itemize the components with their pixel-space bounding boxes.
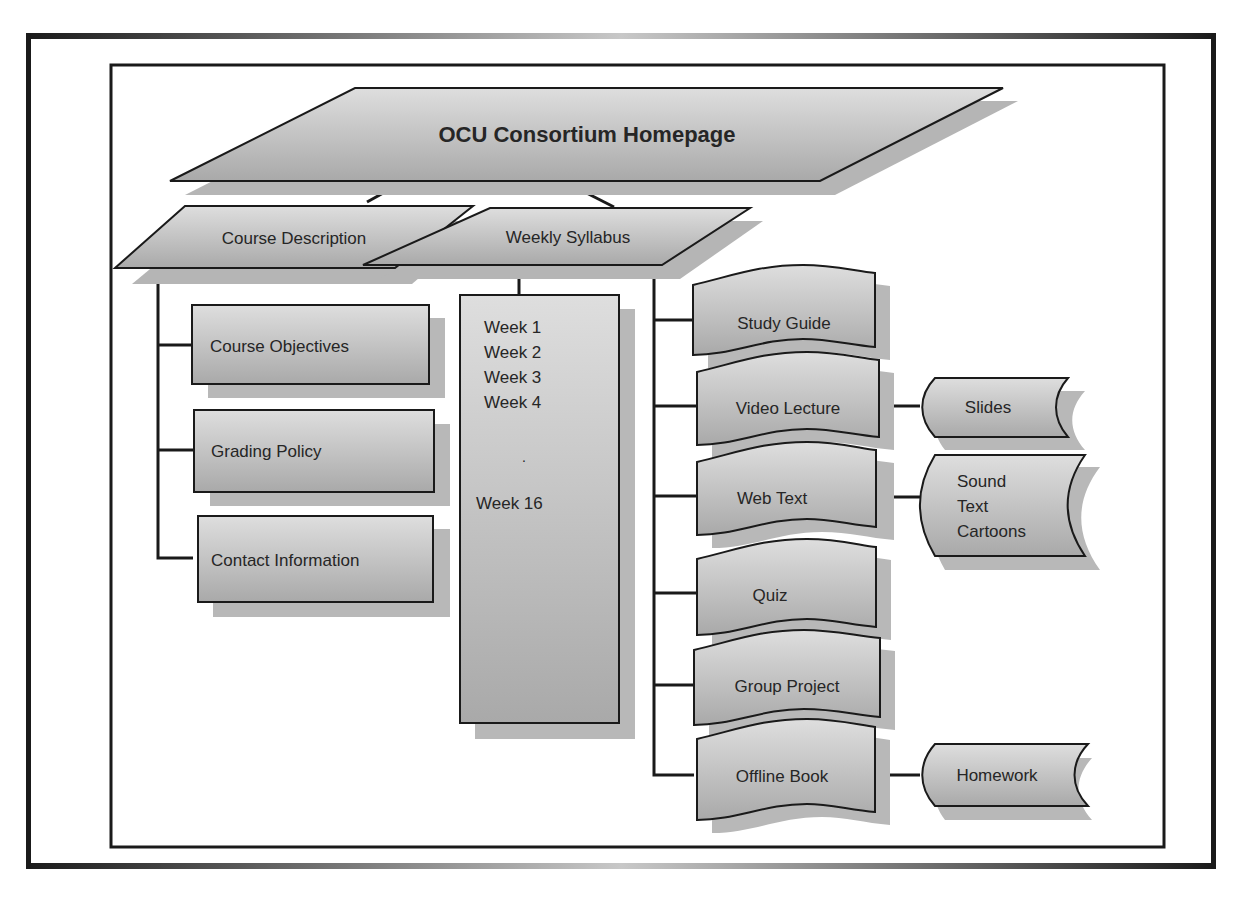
contact-information-node[interactable]: Contact Information [198, 516, 450, 617]
grading-policy-label: Grading Policy [211, 442, 322, 461]
media-cartoons-label: Cartoons [957, 522, 1026, 541]
grading-policy-node[interactable]: Grading Policy [194, 410, 450, 506]
week-3-label: Week 3 [484, 368, 541, 387]
media-sound-label: Sound [957, 472, 1006, 491]
homework-label: Homework [956, 766, 1038, 785]
weekly-syllabus-label: Weekly Syllabus [506, 228, 630, 247]
media-node[interactable]: Sound Text Cartoons [920, 455, 1100, 570]
offline-book-node[interactable]: Offline Book [697, 719, 890, 833]
study-guide-label: Study Guide [737, 314, 831, 333]
offline-book-label: Offline Book [736, 767, 829, 786]
group-project-label: Group Project [735, 677, 840, 696]
homework-node[interactable]: Homework [922, 744, 1092, 820]
web-text-node[interactable]: Web Text [697, 442, 894, 548]
quiz-label: Quiz [753, 586, 788, 605]
week-ellipsis: . [522, 449, 526, 465]
media-text-label: Text [957, 497, 988, 516]
homepage-node[interactable]: OCU Consortium Homepage [170, 88, 1018, 195]
diagram-canvas: OCU Consortium Homepage Course Descripti… [0, 0, 1243, 907]
week-4-label: Week 4 [484, 393, 541, 412]
week-2-label: Week 2 [484, 343, 541, 362]
week-1-label: Week 1 [484, 318, 541, 337]
web-text-label: Web Text [737, 489, 808, 508]
video-lecture-label: Video Lecture [736, 399, 841, 418]
weeks-box-node[interactable]: Week 1 Week 2 Week 3 Week 4 . Week 16 [460, 295, 635, 739]
homepage-label: OCU Consortium Homepage [438, 122, 735, 147]
slides-node[interactable]: Slides [922, 378, 1085, 450]
slides-label: Slides [965, 398, 1011, 417]
course-objectives-label: Course Objectives [210, 337, 349, 356]
week-16-label: Week 16 [476, 494, 543, 513]
contact-information-label: Contact Information [211, 551, 359, 570]
course-description-label: Course Description [222, 229, 367, 248]
course-objectives-node[interactable]: Course Objectives [192, 305, 445, 398]
